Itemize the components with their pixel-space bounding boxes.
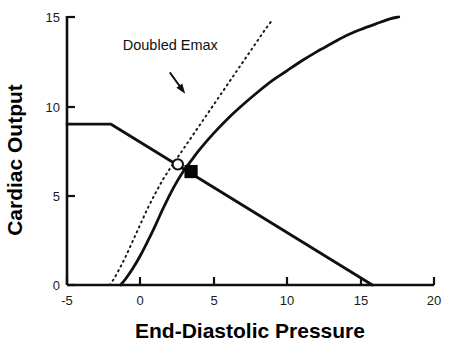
baseline-operating-point-marker [185, 166, 197, 178]
doubled-emax-operating-point-marker [173, 159, 183, 169]
venous-return-curve [67, 124, 372, 285]
doubled-emax-annotation-label: Doubled Emax [123, 37, 219, 53]
x-tick-label--5: -5 [61, 293, 73, 308]
markers-group [173, 159, 197, 177]
y-tick-label-15: 15 [46, 10, 60, 25]
y-tick-label-5: 5 [53, 189, 60, 204]
chart-canvas: -5 0 5 10 15 20 0 5 10 15 [0, 0, 454, 345]
x-tick-label-5: 5 [210, 293, 217, 308]
y-axis-title: Cardiac Output [3, 84, 26, 236]
x-tick-label-0: 0 [136, 293, 143, 308]
x-axis-title: End-Diastolic Pressure [135, 319, 365, 342]
y-tick-labels-group: 0 5 10 15 [46, 10, 60, 293]
x-tick-label-10: 10 [280, 293, 294, 308]
doubled-emax-curve [110, 20, 273, 285]
cardiac-output-chart-figure: -5 0 5 10 15 20 0 5 10 15 [0, 0, 454, 345]
cardiac-function-curve [121, 17, 399, 285]
doubled-emax-annotation-arrow-head [176, 84, 185, 94]
doubled-emax-annotation-group: Doubled Emax [123, 37, 219, 94]
axes-group [67, 16, 434, 285]
y-tick-label-0: 0 [53, 278, 60, 293]
data-curves-group [67, 17, 399, 285]
x-tick-label-15: 15 [354, 293, 368, 308]
x-tick-label-20: 20 [427, 293, 441, 308]
x-tick-labels-group: -5 0 5 10 15 20 [61, 293, 441, 308]
y-tick-label-10: 10 [46, 100, 60, 115]
